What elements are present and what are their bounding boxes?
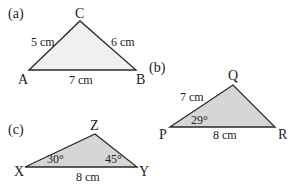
figure-label-a: (a) [8, 6, 24, 22]
vertex-c: C [75, 6, 84, 21]
diagram-svg: (a) C A B 5 cm 6 cm 7 cm (b) Q P R 7 cm … [0, 0, 295, 191]
side-ab-length: 7 cm [69, 73, 93, 87]
triangle-c: (c) Z X Y 30° 45° 8 cm [8, 118, 149, 184]
angle-p: 29° [191, 113, 208, 127]
triangles-diagram: (a) C A B 5 cm 6 cm 7 cm (b) Q P R 7 cm … [0, 0, 295, 191]
vertex-y: Y [139, 164, 149, 179]
figure-label-b: (b) [149, 60, 166, 76]
vertex-b: B [136, 72, 145, 87]
triangle-b: (b) Q P R 7 cm 8 cm 29° [149, 60, 288, 142]
side-xy-length: 8 cm [76, 170, 100, 184]
side-pq-length: 7 cm [180, 90, 204, 104]
figure-label-c: (c) [8, 122, 24, 138]
angle-y: 45° [105, 152, 122, 166]
vertex-a: A [18, 72, 29, 87]
vertex-q: Q [228, 68, 238, 83]
side-cb-length: 6 cm [111, 35, 135, 49]
side-ac-length: 5 cm [31, 35, 55, 49]
vertex-r: R [278, 127, 288, 142]
vertex-z: Z [90, 118, 99, 133]
angle-x: 30° [47, 152, 64, 166]
vertex-p: P [159, 127, 167, 142]
triangle-a: (a) C A B 5 cm 6 cm 7 cm [8, 6, 145, 87]
side-pr-length: 8 cm [213, 128, 237, 142]
vertex-x: X [14, 164, 24, 179]
